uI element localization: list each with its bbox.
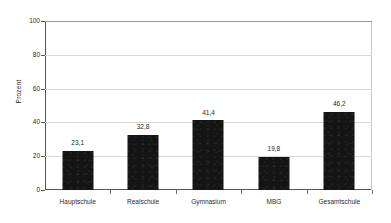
- y-tick-mark: [41, 190, 45, 191]
- bar: [258, 157, 289, 190]
- bar-value-label: 23,1: [71, 140, 84, 147]
- x-category-label: Hauptschule: [60, 199, 96, 206]
- bars-layer: 23,132,841,419,846,2: [45, 21, 372, 190]
- x-tick-mark: [176, 190, 177, 194]
- x-tick-mark: [241, 190, 242, 194]
- bar: [128, 135, 159, 190]
- bar-group: 46,2: [307, 21, 372, 190]
- bar-value-label: 19,8: [268, 146, 281, 153]
- bar: [324, 112, 355, 190]
- x-category-label: Gesamtschule: [319, 199, 361, 206]
- y-tick-label: 40: [10, 119, 40, 126]
- bar-group: 32,8: [110, 21, 175, 190]
- bar-chart: Prozent 020406080100 23,132,841,419,846,…: [0, 0, 391, 223]
- bar: [193, 120, 224, 190]
- y-tick-label: 100: [10, 18, 40, 25]
- bar-group: 19,8: [241, 21, 306, 190]
- bar: [62, 151, 93, 190]
- x-tick-mark: [372, 190, 373, 194]
- y-tick-label: 0: [10, 187, 40, 194]
- x-category-label: Gymnasium: [191, 199, 226, 206]
- y-tick-label: 60: [10, 86, 40, 93]
- bar-value-label: 32,8: [137, 124, 150, 131]
- bar-value-label: 46,2: [333, 101, 346, 108]
- bar-group: 23,1: [45, 21, 110, 190]
- y-tick-label: 20: [10, 153, 40, 160]
- x-category-label: MBG: [266, 199, 281, 206]
- y-tick-label: 80: [10, 52, 40, 59]
- bar-value-label: 41,4: [202, 110, 215, 117]
- x-category-label: Realschule: [127, 199, 159, 206]
- bar-group: 41,4: [176, 21, 241, 190]
- x-tick-mark: [307, 190, 308, 194]
- x-tick-mark: [110, 190, 111, 194]
